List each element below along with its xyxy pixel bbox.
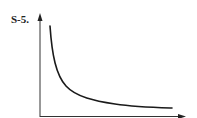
x-axis-arrow-icon: [178, 114, 186, 118]
y-axis-arrow-icon: [38, 13, 43, 21]
curve-series: [50, 26, 172, 108]
plot-area: [0, 0, 197, 118]
